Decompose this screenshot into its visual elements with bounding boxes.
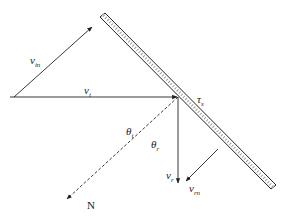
normal-n-arrow — [67, 97, 178, 199]
label-tau-s: τs — [197, 93, 204, 108]
v-rn-arrow — [186, 149, 218, 181]
label-theta-i: θi — [126, 125, 133, 140]
label-v-r: vr — [166, 169, 174, 184]
v-in-arrow — [14, 27, 92, 97]
label-v-in: vin — [30, 54, 41, 69]
label-v-rn: vrn — [189, 182, 201, 197]
label-theta-r: θr — [151, 138, 159, 153]
reflection-diagram: vin vi τs θi θr vr vrn N — [0, 0, 283, 218]
surface-wall — [100, 13, 276, 189]
label-normal-n: N — [87, 199, 95, 211]
